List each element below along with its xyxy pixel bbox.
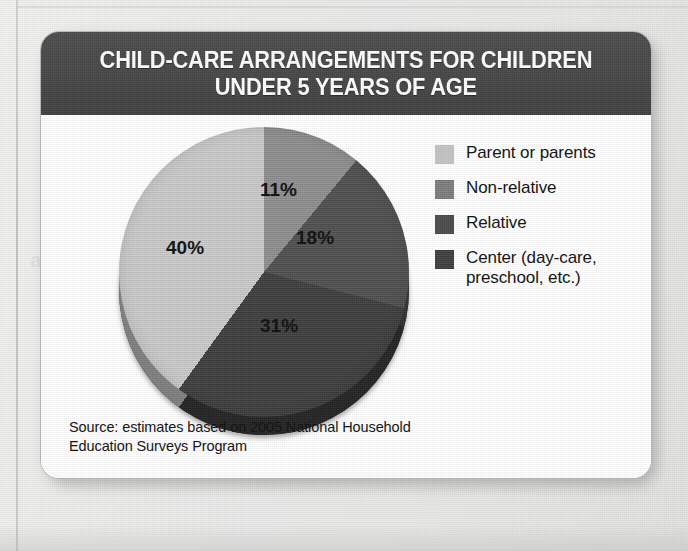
- pie-slice-label-center: 31%: [260, 315, 298, 337]
- legend-swatch-icon: [435, 180, 454, 199]
- legend-item-label: Center (day-care, preschool, etc.): [466, 248, 597, 288]
- pie-slice-label-parent: 40%: [166, 237, 204, 259]
- source-note: Source: estimates based on 2005 National…: [69, 418, 519, 456]
- chart-legend: Parent or parents Non-relative Relative …: [435, 143, 635, 302]
- figure-header-bar: CHILD-CARE ARRANGEMENTS FOR CHILDREN UND…: [41, 32, 651, 115]
- legend-item-label: Non-relative: [466, 178, 556, 198]
- legend-item-label: Parent or parents: [466, 143, 596, 163]
- legend-swatch-icon: [435, 250, 454, 269]
- figure-body: 11% 18% 31% 40% Parent or parents Non-re…: [41, 115, 651, 478]
- figure-card: CHILD-CARE ARRANGEMENTS FOR CHILDREN UND…: [40, 31, 652, 479]
- page-bottom-edge: [0, 525, 688, 551]
- page-left-rule: [16, 0, 18, 551]
- page-top-rule: [16, 6, 688, 8]
- legend-swatch-icon: [435, 145, 454, 164]
- pie-chart: 11% 18% 31% 40%: [119, 127, 409, 417]
- pie-slice-label-non-relative: 11%: [260, 179, 297, 201]
- pie-slice-label-relative: 18%: [296, 227, 334, 249]
- pie-top-face: [119, 127, 409, 417]
- legend-item-parent-or-parents: Parent or parents: [435, 143, 635, 164]
- legend-item-non-relative: Non-relative: [435, 178, 635, 199]
- figure-title: CHILD-CARE ARRANGEMENTS FOR CHILDREN UND…: [100, 47, 593, 101]
- legend-item-label: Relative: [466, 213, 527, 233]
- legend-swatch-icon: [435, 215, 454, 234]
- legend-item-center: Center (day-care, preschool, etc.): [435, 248, 635, 288]
- legend-item-relative: Relative: [435, 213, 635, 234]
- scanned-page: and 25 D R CHILD-CARE ARRANGEMENTS FOR C…: [0, 0, 688, 551]
